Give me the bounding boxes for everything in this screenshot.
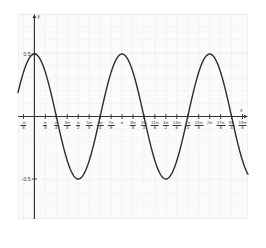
x-axis-label: x [240, 107, 243, 113]
chart-screenshot: -π8π8π43π8π25π83π47π8π9π85π411π83π213π87… [0, 0, 266, 248]
plot-area: -π8π8π43π8π25π83π47π8π9π85π411π83π213π87… [18, 14, 248, 219]
curve-layer [18, 14, 248, 219]
y-axis-label: y [37, 13, 40, 19]
